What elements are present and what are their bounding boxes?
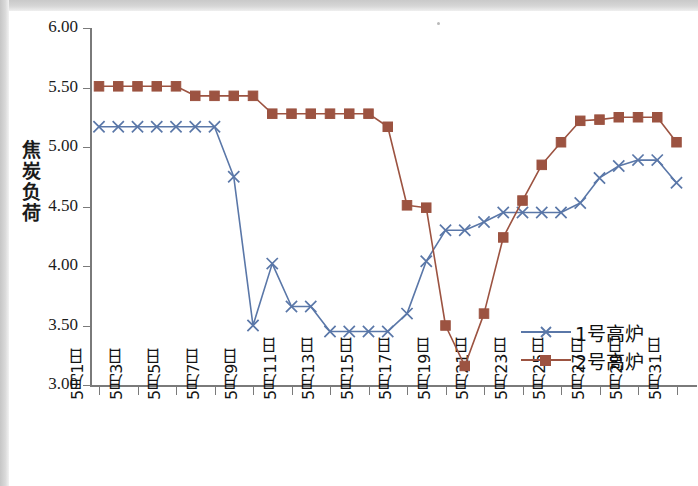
data-point-marker (672, 137, 682, 147)
data-point-marker (633, 113, 643, 123)
data-point-marker (576, 116, 586, 126)
legend-item-1[interactable]: 2号高炉 (521, 346, 691, 374)
data-point-marker (499, 233, 509, 243)
series-line (99, 127, 677, 332)
x-tick-mark (138, 386, 139, 395)
data-point-marker (575, 197, 586, 208)
data-point-marker (133, 82, 143, 92)
legend-swatch-blast-furnace-1 (521, 323, 571, 341)
y-tick-label: 5.50 (28, 77, 78, 97)
x-tick-mark (484, 386, 485, 395)
data-point-marker (152, 82, 162, 92)
data-point-marker (479, 309, 489, 319)
data-point-marker (421, 256, 432, 267)
data-point-marker (556, 137, 566, 147)
data-point-marker (518, 196, 528, 206)
data-point-marker (478, 216, 489, 227)
x-tick-mark (407, 386, 408, 395)
x-tick-mark (600, 386, 601, 395)
data-point-marker (229, 91, 239, 101)
data-point-marker (402, 201, 412, 211)
data-point-marker (267, 258, 278, 269)
x-tick-label: 5月1日 (66, 348, 90, 400)
data-point-marker (653, 113, 663, 123)
data-point-marker (383, 122, 393, 131)
data-point-marker (210, 91, 220, 101)
data-point-marker (364, 109, 374, 119)
data-point-marker (191, 91, 201, 101)
data-point-marker (306, 109, 316, 119)
y-tick-label: 6.00 (28, 17, 78, 37)
y-tick-label: 4.50 (28, 196, 78, 216)
legend-item-0[interactable]: 1号高炉 (521, 318, 691, 346)
data-point-marker (171, 82, 181, 92)
x-tick-mark (253, 386, 254, 395)
legend-label-blast-furnace-2: 2号高炉 (571, 347, 644, 374)
x-tick-mark (561, 386, 562, 395)
series-1 (93, 121, 682, 337)
data-point-marker (613, 160, 624, 171)
y-tick-label: 5.00 (28, 136, 78, 156)
data-point-marker (594, 172, 605, 183)
x-tick-mark (638, 386, 639, 395)
data-point-marker (325, 109, 335, 119)
data-point-marker (287, 109, 297, 119)
x-tick-mark (176, 386, 177, 395)
data-point-marker (614, 113, 624, 123)
data-point-marker (537, 160, 547, 170)
data-point-marker (94, 82, 104, 92)
data-point-marker (671, 177, 682, 188)
legend-swatch-blast-furnace-2 (521, 351, 571, 369)
coke-load-line-chart: 焦炭负荷 6.005.505.004.504.003.503.00 5月1日5月… (0, 0, 698, 486)
legend-x-marker-icon (539, 325, 551, 337)
x-tick-mark (215, 386, 216, 395)
data-point-marker (401, 308, 412, 319)
data-point-marker (248, 91, 258, 101)
x-tick-mark (677, 386, 678, 395)
data-point-marker (441, 321, 451, 331)
data-point-marker (268, 109, 278, 119)
data-point-marker (460, 361, 470, 371)
legend: 1号高炉 2号高炉 (521, 318, 691, 374)
x-tick-mark (292, 386, 293, 395)
data-point-marker (114, 82, 124, 92)
x-tick-mark (369, 386, 370, 395)
x-tick-mark (446, 386, 447, 395)
legend-label-blast-furnace-1: 1号高炉 (571, 319, 644, 346)
y-tick-label: 4.00 (28, 255, 78, 275)
x-tick-mark (330, 386, 331, 395)
data-point-marker (422, 203, 432, 213)
x-tick-mark (523, 386, 524, 395)
x-tick-mark (99, 386, 100, 395)
data-point-marker (595, 115, 605, 125)
y-tick-label: 3.50 (28, 315, 78, 335)
data-point-marker (345, 109, 355, 119)
y-axis-title-char: 炭 (14, 161, 48, 182)
legend-square-marker-icon (540, 355, 551, 366)
